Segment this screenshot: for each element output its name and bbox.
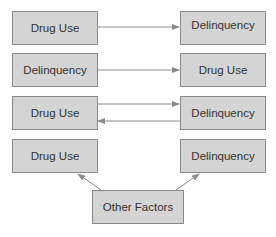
other-factors-box: Other Factors (92, 190, 184, 224)
row3-right-box: Delinquency (180, 96, 266, 130)
row4-right-box: Delinquency (180, 139, 266, 173)
row4-left-box: Drug Use (12, 139, 98, 173)
arrow-other-to-right (176, 174, 199, 190)
row1-right-box: Delinquency (180, 11, 266, 45)
row1-left-box: Drug Use (12, 11, 98, 45)
row2-left-box: Delinquency (12, 53, 98, 87)
row2-right-box: Drug Use (180, 53, 266, 87)
arrow-other-to-left (78, 174, 101, 190)
row3-left-box: Drug Use (12, 96, 98, 130)
